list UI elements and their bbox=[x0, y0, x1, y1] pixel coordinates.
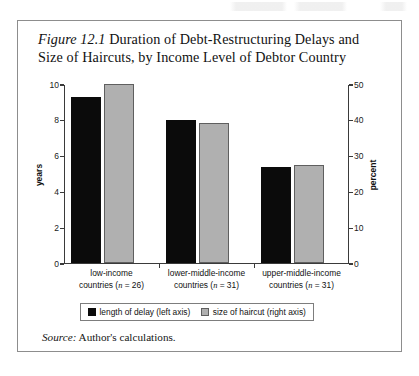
y-axis-right-tick bbox=[349, 192, 353, 193]
y-axis-left-tick bbox=[60, 228, 64, 229]
category-label: upper-middle-incomecountries (n = 31) bbox=[242, 268, 361, 291]
legend-label-haircut: size of haircut (right axis) bbox=[213, 307, 306, 317]
y-axis-left-tick bbox=[60, 192, 64, 193]
y-axis-left-tick-label: 6 bbox=[19, 152, 59, 161]
y-axis-right-line bbox=[348, 85, 349, 264]
legend-swatch-haircut-icon bbox=[201, 308, 209, 316]
bar-size-of-haircut bbox=[199, 123, 229, 263]
y-axis-left-title: years bbox=[34, 163, 44, 185]
figure-container: Figure 12.1 Duration of Debt-Restructuri… bbox=[17, 20, 402, 352]
y-axis-left-tick bbox=[60, 84, 64, 85]
y-axis-right-tick-label: 10 bbox=[354, 224, 394, 233]
legend-swatch-delay-icon bbox=[88, 308, 96, 316]
source-note: Source: Author's calculations. bbox=[42, 331, 176, 343]
y-axis-left-tick-label: 2 bbox=[19, 224, 59, 233]
y-axis-right-tick bbox=[349, 84, 353, 85]
y-axis-left-line bbox=[64, 85, 65, 264]
category-label-line2: countries (n = 31) bbox=[242, 280, 361, 292]
category-labels: low-incomecountries (n = 26)lower-middle… bbox=[64, 268, 349, 298]
chart-legend: length of delay (left axis) size of hair… bbox=[80, 303, 314, 321]
y-axis-right-tick bbox=[349, 263, 353, 264]
y-axis-right-tick-label: 50 bbox=[354, 81, 394, 90]
y-axis-right-tick bbox=[349, 228, 353, 229]
y-axis-left-tick bbox=[60, 120, 64, 121]
y-axis-right-tick bbox=[349, 120, 353, 121]
y-axis-right-tick-label: 30 bbox=[354, 152, 394, 161]
y-axis-left-tick bbox=[60, 156, 64, 157]
plot-area: years percent 0246810 01020304050 bbox=[64, 85, 349, 264]
figure-title: Figure 12.1 Duration of Debt-Restructuri… bbox=[38, 31, 386, 66]
y-axis-right-title: percent bbox=[369, 159, 379, 190]
bar-length-of-delay bbox=[166, 120, 196, 263]
legend-label-delay: length of delay (left axis) bbox=[100, 307, 191, 317]
y-axis-right-tick-label: 20 bbox=[354, 188, 394, 197]
legend-item-haircut: size of haircut (right axis) bbox=[201, 307, 306, 317]
y-axis-left-tick-label: 4 bbox=[19, 188, 59, 197]
figure-number: Figure 12.1 bbox=[38, 31, 106, 47]
y-axis-right-tick-label: 40 bbox=[354, 116, 394, 125]
source-text: Author's calculations. bbox=[79, 331, 176, 343]
y-axis-left-tick-label: 10 bbox=[19, 81, 59, 90]
y-axis-left-tick-label: 8 bbox=[19, 116, 59, 125]
y-axis-right-tick-label: 0 bbox=[354, 260, 394, 269]
bar-length-of-delay bbox=[261, 167, 291, 263]
y-axis-left-tick-label: 0 bbox=[19, 260, 59, 269]
page-header-ghost bbox=[230, 2, 410, 11]
source-label: Source: bbox=[42, 331, 76, 343]
legend-item-delay: length of delay (left axis) bbox=[88, 307, 190, 317]
y-axis-right-tick bbox=[349, 156, 353, 157]
bar-size-of-haircut bbox=[294, 165, 324, 263]
chart: years percent 0246810 01020304050 low-in… bbox=[18, 76, 403, 296]
category-label-line1: upper-middle-income bbox=[242, 268, 361, 280]
bar-length-of-delay bbox=[71, 97, 101, 263]
y-axis-left-tick bbox=[60, 263, 64, 264]
bar-size-of-haircut bbox=[104, 84, 134, 263]
